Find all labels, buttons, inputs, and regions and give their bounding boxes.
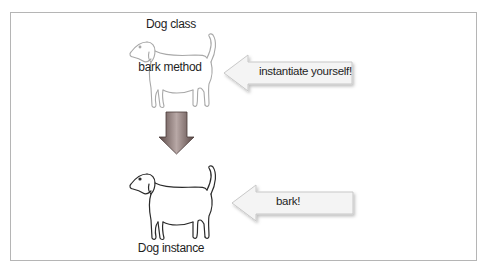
bark-method-label: bark method (138, 60, 201, 74)
bark-arrow-label: bark! (276, 195, 300, 207)
dog-instance-icon (125, 164, 225, 244)
dog-instance-label: Dog instance (138, 241, 204, 255)
instantiate-arrow-label: instantiate yourself! (259, 65, 352, 77)
dog-class-label: Dog class (146, 17, 196, 31)
down-arrow-icon (157, 110, 197, 156)
